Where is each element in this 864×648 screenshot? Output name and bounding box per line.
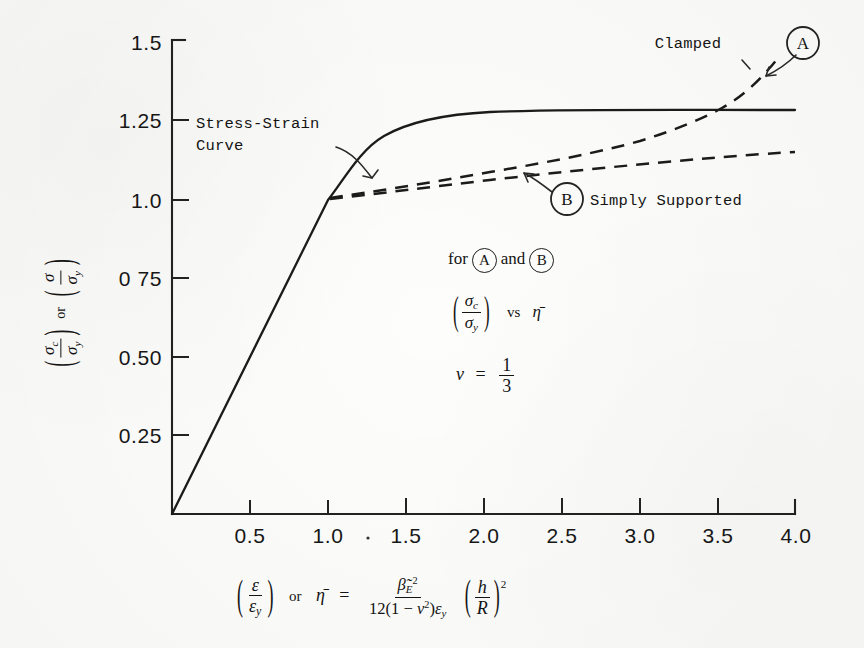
- paren-open: (: [36, 360, 83, 368]
- annotation-simply-supported: Simply Supported: [590, 192, 742, 210]
- nu-equals: =: [476, 364, 486, 384]
- annotation-clamped: Clamped: [655, 35, 722, 53]
- paren-open-2: (: [36, 289, 83, 297]
- mid-sigma-c-sub: c: [473, 299, 478, 311]
- x-label-h-over-r-group: (hR)2: [464, 585, 507, 605]
- y-tick-label-0-25: 0.25: [119, 424, 162, 447]
- y-tick-label-0-75: 0 75: [119, 267, 162, 290]
- y-label-sigma-c-sub: c: [48, 342, 60, 347]
- x-tick-label-1-5: 1.5: [391, 524, 422, 547]
- axis-lines: [172, 40, 795, 514]
- x-label-denom-prefix: 12(1 −: [369, 598, 417, 617]
- circle-inline-b: B: [529, 248, 554, 273]
- chart-canvas: 1.5 1.25 1.0 0 75 0.50 0.25 0.5 1.0 1.5 …: [0, 0, 864, 648]
- circle-marker-b-letter: B: [561, 190, 572, 209]
- circle-marker-a: A: [787, 27, 819, 59]
- annotation-stress-strain-line2: Curve: [196, 137, 244, 155]
- x-axis-label: (εεy) or η̄ = β̃E2 12(1 − ν2)εy (hR)2: [236, 576, 506, 618]
- y-axis-ticks: [172, 120, 189, 435]
- x-tick-label-0-5: 0.5: [235, 524, 266, 547]
- x-label-beta-sub: E: [406, 583, 413, 595]
- nu-numerator: 1: [499, 356, 514, 376]
- y-tick-label-1-5: 1.5: [131, 31, 162, 54]
- circle-inline-a-letter: A: [479, 253, 490, 268]
- circle-inline-a: A: [472, 248, 497, 273]
- x-label-equals: =: [339, 585, 349, 605]
- eta-bar-mid: η̄: [533, 302, 541, 321]
- paren-close-2: ): [36, 258, 83, 266]
- scan-speck: [366, 536, 369, 539]
- vs-word: vs: [507, 304, 520, 320]
- x-label-hr-sup: 2: [501, 578, 507, 590]
- annotation-nu-equals-one-third: ν = 13: [456, 356, 516, 395]
- mid-sigma-c: σ: [465, 291, 473, 310]
- x-axis-ticks: [250, 498, 718, 514]
- circle-marker-b: B: [551, 183, 583, 215]
- x-label-eta-bar: η̄: [316, 585, 325, 605]
- nu-symbol: ν: [456, 364, 464, 384]
- y-label-sigma-y-sub: y: [71, 342, 83, 347]
- and-word: and: [501, 249, 526, 268]
- y-label-sigma-y-2: σ: [62, 276, 81, 284]
- x-tick-label-3-0: 3.0: [625, 524, 656, 547]
- paren-close-mid: ): [483, 291, 491, 331]
- y-tick-label-1-0: 1.0: [131, 189, 162, 212]
- paren-open-mid: (: [452, 291, 460, 331]
- annotation-sigmac-over-sigmay-vs-eta: (σcσy) vs η̄: [452, 292, 541, 334]
- x-label-epsilon: ε: [252, 575, 259, 595]
- x-label-epsilon-y-sub: y: [256, 604, 261, 618]
- y-label-sigma: σ: [39, 274, 58, 282]
- x-label-denom-eps-sub: y: [441, 606, 446, 618]
- x-label-beta-sup: 2: [413, 575, 418, 586]
- y-axis-label: (σcσy) or (σσy): [26, 168, 96, 458]
- y-label-sigma-y: σ: [63, 346, 82, 354]
- annotation-for-a-and-b: forAandB: [448, 248, 558, 273]
- y-tick-label-0-50: 0.50: [119, 346, 162, 369]
- x-paren-open: (: [236, 574, 244, 616]
- hatch-mark-clamped: [742, 60, 750, 69]
- y-label-sigma-c: σ: [39, 346, 58, 354]
- y-axis-label-or: or: [53, 307, 69, 319]
- nu-denominator: 3: [499, 376, 514, 395]
- x-label-R: R: [477, 598, 488, 618]
- annotation-stress-strain-line1: Stress-Strain: [196, 115, 320, 133]
- x-label-h: h: [478, 577, 487, 597]
- mid-sigma-y-sub: y: [473, 322, 478, 334]
- x-tick-label-2-0: 2.0: [469, 524, 500, 547]
- x-label-beta-tilde: β̃: [398, 575, 406, 594]
- paren-close: ): [36, 329, 83, 337]
- x-label-or: or: [289, 588, 302, 604]
- x-paren-open-2: (: [464, 574, 472, 616]
- circle-marker-a-letter: A: [797, 34, 810, 53]
- mid-sigma-y: σ: [465, 313, 473, 332]
- circle-inline-b-letter: B: [537, 253, 547, 268]
- y-tick-label-1-25: 1.25: [119, 109, 162, 132]
- series-clamped-a: [330, 58, 778, 198]
- x-tick-label-2-5: 2.5: [547, 524, 578, 547]
- for-word: for: [448, 249, 468, 268]
- x-paren-close-2: ): [493, 574, 501, 616]
- x-tick-label-1-0: 1.0: [313, 524, 344, 547]
- y-axis-label-sigma-over-sigma-y: (σσy): [39, 258, 82, 297]
- x-tick-label-3-5: 3.5: [703, 524, 734, 547]
- x-tick-label-4-0: 4.0: [781, 524, 812, 547]
- x-paren-close: ): [266, 574, 274, 616]
- figure-page: 1.5 1.25 1.0 0 75 0.50 0.25 0.5 1.0 1.5 …: [0, 0, 864, 648]
- y-label-sigma-y-sub-2: y: [71, 271, 83, 276]
- y-axis-label-sigma-c-over-sigma-y: (σcσy): [39, 329, 82, 368]
